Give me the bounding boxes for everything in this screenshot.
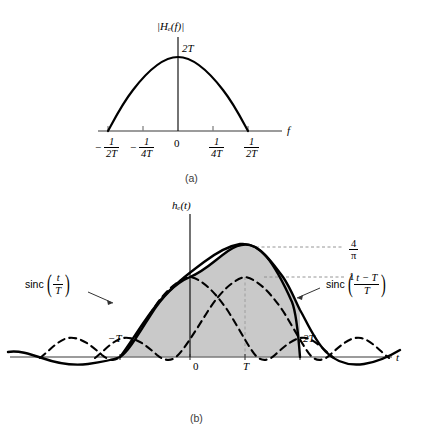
- annotation-sinc-t-minus-T-over-T-frac: t − T T: [354, 272, 379, 296]
- panel-b-level-4-over-pi: 4 π: [349, 238, 358, 261]
- panel-a-ticklabel-pos-quarter: 1 4T: [209, 136, 224, 159]
- panel-b-ticklabel-2T: 2T: [303, 332, 315, 344]
- panel-b-y-axis-label: hₑ(t): [172, 200, 191, 211]
- panel-a-caption: (a): [185, 172, 198, 184]
- panel-a-y-axis-label: |Hₑ(f)|: [157, 21, 184, 32]
- panel-a-ticklabel-neg-half: 1 2T: [104, 136, 119, 159]
- panel-b-level-4-over-pi-num: 4: [349, 238, 358, 249]
- annotation-sinc-t-over-T-fn: sinc: [25, 278, 44, 290]
- panel-b-ticklabel-T: T: [243, 360, 249, 372]
- right-paren-icon: ): [65, 274, 70, 295]
- panel-a-ticklabel-neg-quarter-num: 1: [139, 136, 154, 147]
- panel-b-level-4-over-pi-den: π: [349, 249, 358, 261]
- annotation-sinc-t-over-T-num: t: [53, 272, 63, 284]
- panel-b-t-axis-label: t: [396, 351, 399, 363]
- panel-a-x-axis-label: f: [287, 124, 290, 136]
- panel-a-ticklabel-pos-half: 1 2T: [244, 136, 259, 159]
- left-paren-icon: (: [47, 274, 52, 295]
- annotation-sinc-t-over-T: sinc ( t T ): [25, 272, 72, 296]
- panel-a-ticklabel-neg-quarter: 1 4T: [139, 136, 154, 159]
- panel-a-ticklabel-neg-half-den: 2T: [104, 147, 119, 159]
- panel-b-ticklabel-zero: 0: [193, 360, 199, 372]
- left-paren-icon-2: (: [348, 274, 353, 295]
- annotation-sinc-t-minus-T-over-T-fn: sinc: [326, 278, 345, 290]
- panel-a-ticklabel-pos-half-den: 2T: [244, 147, 259, 159]
- annotation-sinc-t-minus-T-over-T: sinc ( t − T T ): [326, 272, 388, 296]
- panel-a-peak-label: 2T: [182, 42, 194, 54]
- panel-a-tick-sign-neg-quarter: −: [130, 141, 136, 153]
- panel-b-ticklabel-neg-T: −T: [108, 332, 122, 344]
- figure-canvas: [0, 0, 424, 442]
- panel-a-ticklabel-pos-quarter-num: 1: [209, 136, 224, 147]
- right-paren-icon-2: ): [381, 274, 386, 295]
- panel-a-ticklabel-pos-half-num: 1: [244, 136, 259, 147]
- annotation-sinc-t-over-T-frac: t T: [53, 272, 63, 296]
- panel-a-ticklabel-neg-half-num: 1: [104, 136, 119, 147]
- annotation-sinc-t-minus-T-over-T-num: t − T: [354, 272, 379, 284]
- panel-a-ticklabel-zero: 0: [174, 137, 180, 149]
- annotation-sinc-t-over-T-den: T: [53, 284, 63, 297]
- panel-a-ticklabel-pos-quarter-den: 4T: [209, 147, 224, 159]
- figure-root: |Hₑ(f)| 2T f − 1 2T − 1 4T 0 1 4T 1 2T (…: [0, 0, 424, 442]
- panel-b-shaded-region-fill: [120, 245, 300, 357]
- panel-a-ticklabel-neg-quarter-den: 4T: [139, 147, 154, 159]
- annotation-sinc-t-minus-T-over-T-den: T: [354, 284, 379, 297]
- panel-b-caption: (b): [190, 412, 203, 424]
- panel-a-tick-sign-neg-half: −: [95, 141, 101, 153]
